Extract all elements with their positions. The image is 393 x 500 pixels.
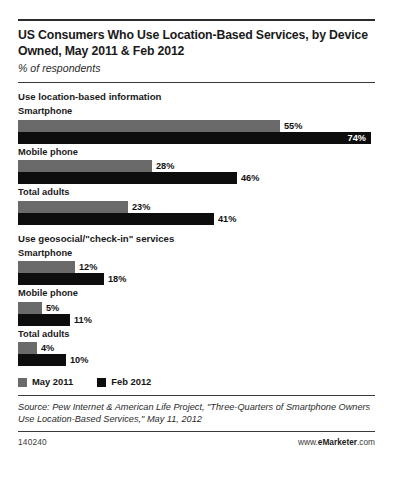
bar-row: 28% — [18, 160, 375, 172]
bar-row: 23% — [18, 201, 375, 213]
bar-group: Smartphone12%18% — [18, 248, 375, 286]
section-heading: Use geosocial/"check-in" services — [18, 233, 375, 245]
bar-row: 74% — [18, 132, 375, 144]
bar-row: 12% — [18, 261, 375, 273]
bar-group-bars: 55%74% — [18, 120, 375, 144]
bar-feb — [18, 314, 70, 326]
bar-row: 5% — [18, 302, 375, 314]
bar-group-label: Smartphone — [18, 106, 375, 118]
bar-row: 46% — [18, 172, 375, 184]
bar-group-bars: 23%41% — [18, 201, 375, 225]
source-top-divider — [18, 395, 375, 396]
bar-group-label: Total adults — [18, 187, 375, 199]
bar-group: Mobile phone28%46% — [18, 147, 375, 185]
bar-feb — [18, 172, 237, 184]
bar-group: Mobile phone5%11% — [18, 288, 375, 326]
bar-may — [18, 342, 37, 354]
legend-label-may-2011: May 2011 — [32, 377, 73, 387]
chart-legend: May 2011 Feb 2012 — [18, 377, 375, 387]
bar-feb — [18, 354, 66, 366]
source-note: Source: Pew Internet & American Life Pro… — [18, 401, 375, 426]
bar-group-bars: 12%18% — [18, 261, 375, 285]
legend-item-may-2011: May 2011 — [18, 377, 73, 387]
bar-row: 41% — [18, 213, 375, 225]
bar-may — [18, 261, 75, 273]
brand-name: eMarketer — [318, 437, 357, 447]
bar-value-label: 4% — [41, 342, 54, 354]
section-heading: Use location-based information — [18, 91, 375, 103]
bar-row: 18% — [18, 273, 375, 285]
legend-label-feb-2012: Feb 2012 — [111, 377, 151, 387]
bar-group-label: Total adults — [18, 329, 375, 341]
chart-title: US Consumers Who Use Location-Based Serv… — [18, 28, 375, 59]
bar-group-label: Mobile phone — [18, 288, 375, 300]
chart-sections: Use location-based informationSmartphone… — [18, 91, 375, 366]
bar-feb — [18, 213, 214, 225]
top-divider — [18, 19, 375, 21]
bar-group: Smartphone55%74% — [18, 106, 375, 144]
bar-value-label: 46% — [241, 172, 259, 184]
brand-suffix: .com — [357, 437, 375, 447]
bar-may — [18, 302, 42, 314]
bar-row: 55% — [18, 120, 375, 132]
legend-item-feb-2012: Feb 2012 — [97, 377, 151, 387]
bar-may — [18, 120, 280, 132]
bar-feb: 74% — [18, 132, 371, 144]
bar-feb — [18, 273, 104, 285]
bar-value-label: 18% — [108, 273, 126, 285]
legend-swatch-may-2011-icon — [18, 378, 27, 387]
bar-value-label: 11% — [74, 314, 92, 326]
bar-value-label: 23% — [132, 201, 150, 213]
bar-group: Total adults4%10% — [18, 329, 375, 367]
bar-value-label: 5% — [46, 302, 59, 314]
bar-group-bars: 4%10% — [18, 342, 375, 366]
bar-may — [18, 160, 152, 172]
bar-group-label: Mobile phone — [18, 147, 375, 159]
bar-group-bars: 28%46% — [18, 160, 375, 184]
bar-group: Total adults23%41% — [18, 187, 375, 225]
footer-divider — [18, 431, 375, 432]
chart-id: 140240 — [18, 437, 47, 447]
bar-value-label: 74% — [348, 132, 366, 144]
brand-url: www.eMarketer.com — [298, 437, 375, 447]
bar-value-label: 12% — [79, 261, 97, 273]
chart-page: US Consumers Who Use Location-Based Serv… — [0, 0, 393, 500]
bar-value-label: 10% — [70, 354, 88, 366]
bar-value-label: 55% — [284, 120, 302, 132]
bar-value-label: 41% — [218, 213, 236, 225]
bar-may — [18, 201, 128, 213]
brand-prefix: www. — [298, 437, 318, 447]
legend-swatch-feb-2012-icon — [97, 378, 106, 387]
bar-row: 4% — [18, 342, 375, 354]
bar-row: 10% — [18, 354, 375, 366]
chart-footer: 140240 www.eMarketer.com — [18, 437, 375, 447]
bar-group-label: Smartphone — [18, 248, 375, 260]
subtitle-divider — [18, 82, 375, 83]
bar-group-bars: 5%11% — [18, 302, 375, 326]
chart-subtitle: % of respondents — [18, 62, 375, 75]
bar-row: 11% — [18, 314, 375, 326]
bar-value-label: 28% — [156, 160, 174, 172]
